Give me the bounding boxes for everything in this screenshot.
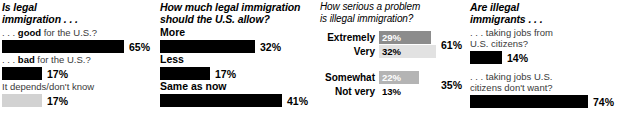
bar-row-more: 32%	[160, 40, 312, 53]
bar-label-taking-jobs-from: . . . taking jobs from U.S. citizens?	[470, 27, 624, 49]
panel-3-headline: How serious a problem is illegal immigra…	[320, 1, 462, 25]
bar-row-depends: 17%	[2, 94, 152, 107]
bar-label-more: More	[160, 27, 312, 38]
bar-label-jobs-not-wanted-line-2: citizens don't want?	[470, 82, 553, 93]
panel-4-headline-line-1: Are illegal	[470, 1, 624, 13]
bar-row-bad: 17%	[2, 67, 152, 80]
bar-value-less: 17%	[215, 68, 236, 80]
stacked-value-extremely: 29%	[379, 32, 401, 43]
bar-value-more: 32%	[260, 41, 281, 53]
bar-value-taking-jobs-from: 14%	[507, 52, 528, 64]
stacked-value-somewhat: 22%	[379, 72, 401, 83]
stacked-bar-somewhat: 22%	[379, 71, 419, 84]
stacked-label-not-very: Not very	[320, 86, 379, 97]
bar-depends	[2, 94, 42, 107]
group-total-serious: 61%	[441, 39, 462, 51]
stacked-row-somewhat: Somewhat 22%	[320, 71, 437, 84]
stacked-value-not-very: 13%	[379, 86, 401, 97]
panel-4-headline: Are illegal immigrants . . .	[470, 1, 624, 25]
group-serious: Extremely 29% Very 32% 61%	[320, 31, 462, 59]
panel-1-headline-line-2: immigration . . .	[2, 13, 152, 25]
panel-1-headline: Is legal immigration . . .	[2, 1, 152, 25]
group-not-serious: Somewhat 22% Not very 13% 35%	[320, 71, 462, 99]
bar-row-good: 65%	[2, 40, 152, 53]
bar-label-jobs-not-wanted-line-1: . . . taking jobs U.S.	[470, 71, 552, 82]
bar-label-good: . . . good for the U.S.?	[2, 27, 152, 38]
panel-2-headline: How much legal immigration should the U.…	[160, 1, 312, 25]
immigration-poll-figure: Is legal immigration . . . . . . good fo…	[0, 0, 626, 116]
panel-how-serious-illegal-immigration: How serious a problem is illegal immigra…	[320, 0, 462, 116]
bar-label-depends: It depends/don't know	[2, 81, 152, 92]
bar-more	[160, 40, 255, 53]
bar-value-jobs-not-wanted: 74%	[593, 96, 614, 108]
panel-2-headline-line-2: should the U.S. allow?	[160, 13, 312, 25]
panel-1-headline-line-1: Is legal	[2, 1, 152, 13]
bar-label-bad: . . . bad for the U.S.?	[2, 54, 152, 65]
group-total-not-serious: 35%	[441, 79, 462, 91]
panel-are-illegal-immigrants: Are illegal immigrants . . . . . . takin…	[470, 0, 624, 116]
bar-value-bad: 17%	[47, 68, 68, 80]
bar-row-same-as-now: 41%	[160, 94, 312, 107]
stacked-label-somewhat: Somewhat	[320, 72, 379, 83]
stacked-row-very: Very 32%	[320, 45, 437, 58]
bar-jobs-not-wanted	[470, 95, 588, 108]
bar-same-as-now	[160, 94, 282, 107]
bar-bad	[2, 67, 42, 80]
panel-3-headline-line-2: is illegal immigration?	[320, 13, 462, 25]
bar-good	[2, 40, 124, 53]
stacked-label-very: Very	[320, 46, 379, 57]
stacked-bar-extremely: 29%	[379, 31, 431, 44]
panel-2-headline-line-1: How much legal immigration	[160, 1, 312, 13]
stacked-label-extremely: Extremely	[320, 32, 379, 43]
bar-row-less: 17%	[160, 67, 312, 80]
bar-label-taking-jobs-from-line-1: . . . taking jobs from	[470, 27, 553, 38]
bar-label-jobs-not-wanted: . . . taking jobs U.S. citizens don't wa…	[470, 71, 624, 93]
bar-taking-jobs-from	[470, 51, 502, 64]
bar-value-depends: 17%	[47, 95, 68, 107]
bar-value-good: 65%	[129, 41, 150, 53]
stacked-bar-not-very: 13%	[379, 85, 403, 98]
stacked-value-very: 32%	[379, 46, 401, 57]
bar-row-jobs-not-wanted: 74%	[470, 95, 624, 108]
panel-how-much-legal-immigration: How much legal immigration should the U.…	[160, 0, 312, 116]
stacked-row-not-very: Not very 13%	[320, 85, 437, 98]
panel-legal-immigration-good-bad: Is legal immigration . . . . . . good fo…	[2, 0, 152, 116]
panel-4-headline-line-2: immigrants . . .	[470, 13, 624, 25]
bar-less	[160, 67, 210, 80]
bar-label-less: Less	[160, 54, 312, 65]
group-serious-rows: Extremely 29% Very 32%	[320, 31, 437, 59]
panel-3-headline-line-1: How serious a problem	[320, 1, 462, 13]
group-not-serious-rows: Somewhat 22% Not very 13%	[320, 71, 437, 99]
bar-label-same-as-now: Same as now	[160, 81, 312, 92]
bar-value-same-as-now: 41%	[287, 95, 308, 107]
bar-row-taking-jobs-from: 14%	[470, 51, 624, 64]
stacked-row-extremely: Extremely 29%	[320, 31, 437, 44]
bar-label-taking-jobs-from-line-2: U.S. citizens?	[470, 38, 528, 49]
stacked-bar-very: 32%	[379, 45, 436, 58]
